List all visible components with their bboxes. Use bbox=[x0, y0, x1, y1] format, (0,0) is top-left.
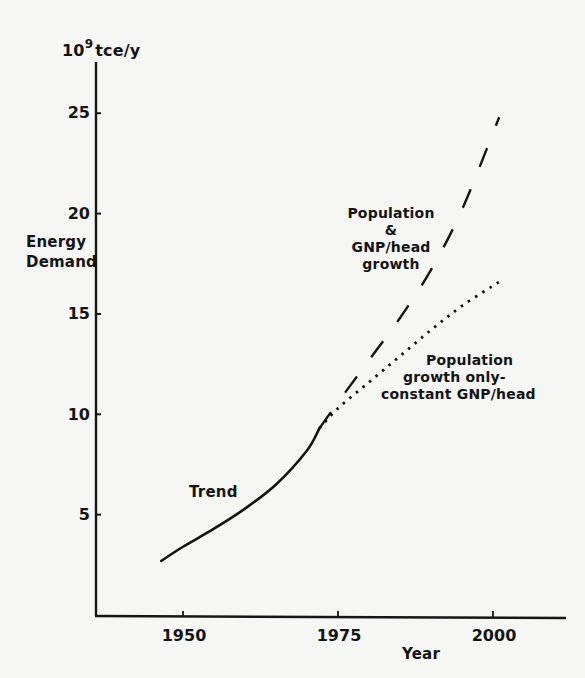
annotation-pop-only-line3: constant GNP/head bbox=[381, 386, 536, 403]
annotation-pop-only-line2: growth only- bbox=[381, 369, 536, 386]
x-tick-2000: 2000 bbox=[464, 626, 524, 645]
y-axis-label-text: Energy Demand bbox=[26, 233, 97, 271]
x-tick-1975: 1975 bbox=[309, 626, 369, 645]
annotation-pop-gnp-line1: Population bbox=[340, 205, 442, 222]
annotation-trend: Trend bbox=[189, 484, 238, 501]
x-axis bbox=[95, 616, 566, 618]
x-tick-1950: 1950 bbox=[154, 626, 214, 645]
chart-canvas bbox=[0, 0, 585, 678]
annotation-pop-gnp-line2: & bbox=[340, 222, 442, 239]
y-tick-15: 15 bbox=[50, 304, 90, 323]
y-tick-5: 5 bbox=[50, 505, 90, 524]
annotation-pop-gnp: Population & GNP/head growth bbox=[340, 205, 442, 273]
annotation-pop-only: Population growth only- constant GNP/hea… bbox=[381, 352, 536, 403]
annotation-pop-only-line1: Population bbox=[381, 352, 536, 369]
annotation-pop-gnp-line3: GNP/head bbox=[340, 239, 442, 256]
annotation-pop-gnp-line4: growth bbox=[340, 256, 442, 273]
y-unit-label: 109tce/y bbox=[62, 38, 141, 59]
x-axis-label: Year bbox=[402, 646, 440, 663]
y-unit-exponent: 9 bbox=[85, 37, 94, 51]
y-tick-25: 25 bbox=[50, 103, 90, 122]
y-tick-10: 10 bbox=[50, 405, 90, 424]
y-unit-base: 10 bbox=[62, 41, 85, 60]
y-tick-20: 20 bbox=[50, 204, 90, 223]
y-axis-label: Energy Demand bbox=[26, 232, 96, 272]
series-line-solid bbox=[161, 428, 319, 560]
y-unit-rest: tce/y bbox=[95, 41, 140, 60]
